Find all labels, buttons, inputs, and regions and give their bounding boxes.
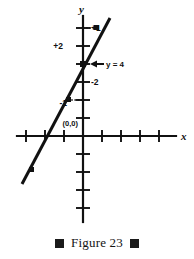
- figure-caption: Figure 23: [0, 230, 194, 256]
- caption-square-left-icon: [55, 239, 64, 248]
- caption-square-right-icon: [130, 239, 139, 248]
- caption-text: Figure 23: [71, 235, 123, 251]
- coordinate-plot: y x +1 +2 -2 -1 (0,0) y = 4: [0, 0, 194, 226]
- line-equation-annotation: y = 4: [106, 60, 125, 69]
- x-axis-label: x: [180, 130, 187, 142]
- tick-label-minus-one: -1: [59, 98, 67, 108]
- tick-label-plus-one: +1: [91, 23, 101, 33]
- y-axis-label: y: [77, 3, 84, 15]
- tick-label-minus-two: -2: [91, 77, 99, 87]
- origin-label: (0,0): [63, 119, 79, 128]
- figure-container: y x +1 +2 -2 -1 (0,0) y = 4 Figure 23: [0, 0, 194, 259]
- left-arrow-icon: [90, 61, 104, 68]
- tick-label-plus-two: +2: [53, 41, 63, 51]
- plot-svg: y x +1 +2 -2 -1 (0,0) y = 4: [0, 0, 194, 226]
